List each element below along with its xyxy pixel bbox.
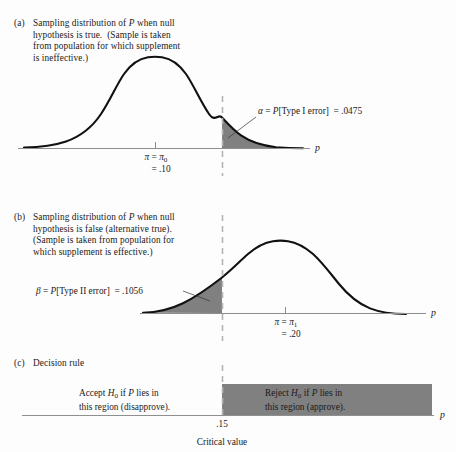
critical-value-guides — [0, 0, 456, 452]
figure-root: (a) Sampling distribution of P when null… — [0, 0, 456, 452]
